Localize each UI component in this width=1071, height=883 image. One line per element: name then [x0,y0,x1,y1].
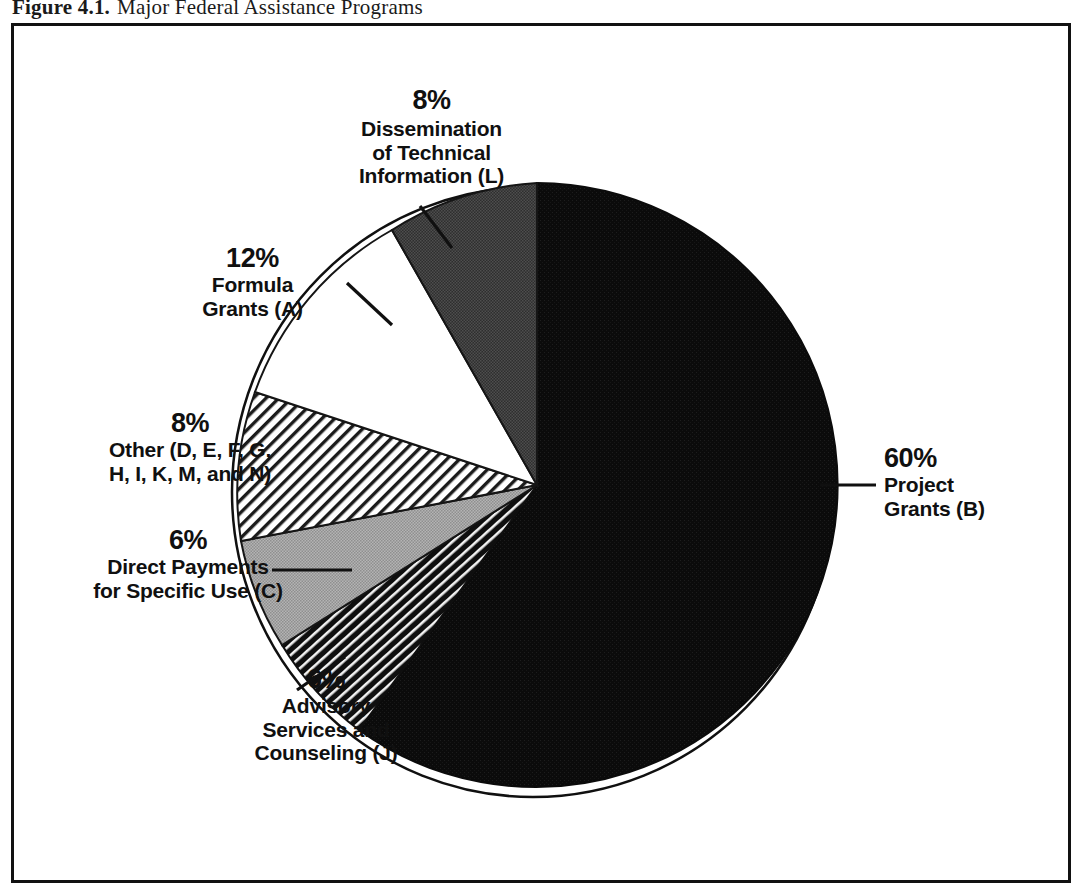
callout-project-label: Project Grants (B) [884,473,1052,520]
callout-dissemination: 8% Dissemination of Technical Informatio… [294,85,569,188]
callout-project: 60% Project Grants (B) [884,443,1052,520]
callout-dissemination-percent: 8% [294,85,569,115]
callout-direct: 6% Direct Payments for Specific Use (C) [28,525,348,602]
callout-formula-label: Formula Grants (A) [140,273,365,320]
callout-formula-percent: 12% [140,243,365,273]
callout-formula: 12% Formula Grants (A) [140,243,365,320]
callout-other-percent: 8% [40,408,340,438]
callout-other: 8% Other (D, E, F, G, H, I, K, M, and N) [40,408,340,485]
callout-project-percent: 60% [884,443,1052,473]
callout-advisory-label: Advisory Services and Counseling (J) [196,694,456,765]
callout-direct-percent: 6% [28,525,348,555]
callout-dissemination-label: Dissemination of Technical Information (… [294,117,569,188]
callout-advisory-percent: 6% [196,664,456,694]
callout-direct-label: Direct Payments for Specific Use (C) [28,555,348,602]
callout-other-label: Other (D, E, F, G, H, I, K, M, and N) [40,438,340,485]
callout-advisory: 6% Advisory Services and Counseling (J) [196,664,456,765]
